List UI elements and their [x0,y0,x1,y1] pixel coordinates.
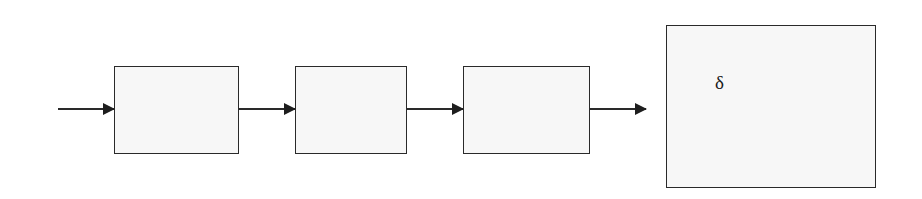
block-1 [114,66,239,154]
block-4-delta [666,25,876,188]
delta-label: δ [715,72,724,94]
block-2 [295,66,407,154]
block-diagram: δ [0,0,922,199]
block-3 [463,66,590,154]
